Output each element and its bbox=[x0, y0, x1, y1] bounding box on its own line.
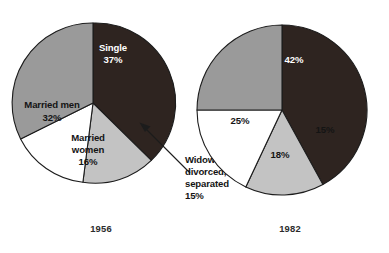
label-married-women-value-1956: 16% bbox=[79, 156, 98, 167]
slice-married-men-1982[interactable] bbox=[197, 25, 282, 110]
label-widowed-value-1982: 15% bbox=[316, 124, 335, 135]
label-married-women-value-1982: 18% bbox=[271, 149, 290, 160]
label-single-name-1956: Single bbox=[99, 42, 127, 53]
label-single-value-1982: 42% bbox=[285, 54, 304, 65]
chart-canvas: Single 37% Married men 32% Married women… bbox=[0, 0, 389, 253]
pie-chart-1982: 42% 25% 18% 15% 1982 bbox=[197, 25, 367, 234]
label-single-value-1956: 37% bbox=[104, 54, 123, 65]
year-label-1956: 1956 bbox=[90, 223, 112, 234]
label-married-women-line2-1956: women bbox=[71, 144, 105, 155]
label-widowed-value-1956: 15% bbox=[185, 190, 204, 201]
label-married-men-value-1982: 25% bbox=[231, 115, 250, 126]
year-label-1982: 1982 bbox=[279, 223, 301, 234]
pie-chart-1956: Single 37% Married men 32% Married women… bbox=[12, 23, 229, 234]
label-married-men-name-1956: Married men bbox=[24, 99, 80, 110]
label-married-women-line1-1956: Married bbox=[71, 132, 105, 143]
pie-chart-figure: Single 37% Married men 32% Married women… bbox=[0, 0, 389, 253]
label-widowed-line3-1956: separated bbox=[185, 178, 229, 189]
label-married-men-value-1956: 32% bbox=[43, 112, 62, 123]
